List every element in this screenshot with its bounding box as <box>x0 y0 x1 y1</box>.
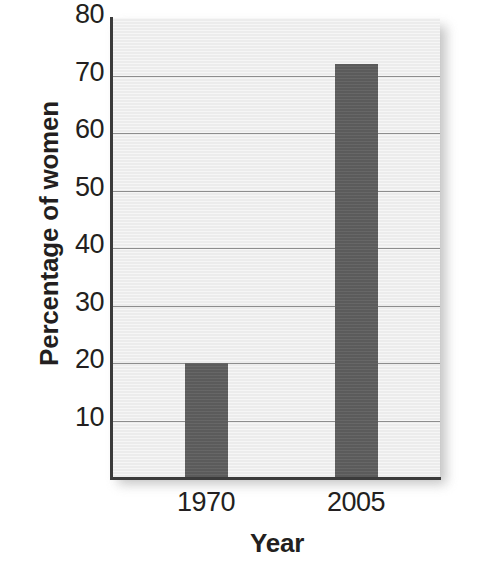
bar-chart-figure: Percentage of women 1020304050607080 197… <box>0 0 477 572</box>
x-tick-label-1970: 1970 <box>146 487 266 518</box>
gridline-60 <box>112 133 440 134</box>
y-tick-label-20: 20 <box>44 344 104 375</box>
y-tick-label-70: 70 <box>44 57 104 88</box>
gridline-50 <box>112 191 440 192</box>
y-tick-label-50: 50 <box>44 172 104 203</box>
x-tick-label-2005: 2005 <box>296 487 416 518</box>
y-tick-label-80: 80 <box>44 0 104 30</box>
y-axis-line <box>110 17 113 480</box>
x-axis-line <box>110 477 441 480</box>
gridline-40 <box>112 248 440 249</box>
gridline-20 <box>112 363 440 364</box>
gridline-70 <box>112 76 440 77</box>
bar-1970 <box>185 363 228 478</box>
y-axis-tick-labels: 1020304050607080 <box>40 0 104 572</box>
gridline-10 <box>112 421 440 422</box>
plot-area <box>112 18 440 478</box>
y-tick-label-10: 10 <box>44 402 104 433</box>
y-tick-label-40: 40 <box>44 229 104 260</box>
y-tick-label-60: 60 <box>44 114 104 145</box>
x-axis-title: Year <box>112 528 442 559</box>
gridline-30 <box>112 306 440 307</box>
y-tick-label-30: 30 <box>44 287 104 318</box>
bar-2005 <box>335 64 378 478</box>
